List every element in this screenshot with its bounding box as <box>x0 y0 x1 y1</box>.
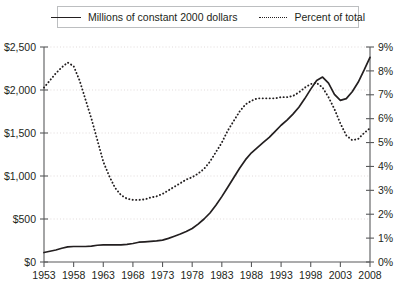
chart-series <box>44 57 370 252</box>
chart-gridlines <box>44 47 370 219</box>
right-tick-label: 1% <box>378 232 393 244</box>
left-tick-label: $1,000 <box>4 170 36 182</box>
right-tick-label: 9% <box>378 41 393 53</box>
left-axis-ticks: $0$500$1,000$1,500$2,000$2,500 <box>4 41 48 268</box>
x-tick-label: 1993 <box>269 269 293 281</box>
right-tick-label: 4% <box>378 160 393 172</box>
right-tick-label: 2% <box>378 208 393 220</box>
right-tick-label: 0% <box>378 256 393 268</box>
right-tick-label: 8% <box>378 65 393 77</box>
chart-axes <box>44 47 370 262</box>
left-tick-label: $500 <box>13 213 37 225</box>
legend-swatch-dotted-line-icon <box>259 17 287 18</box>
chart-plot: $0$500$1,000$1,500$2,000$2,500 0%1%2%3%4… <box>0 0 406 293</box>
chart-legend: Millions of constant 2000 dollars Percen… <box>57 6 359 28</box>
x-tick-label: 2008 <box>358 269 382 281</box>
x-tick-label: 1988 <box>240 269 264 281</box>
legend-label-percent: Percent of total <box>294 12 365 23</box>
right-tick-label: 3% <box>378 184 393 196</box>
x-axis-ticks: 1953195819631968197319781983198819931998… <box>32 262 382 281</box>
legend-swatch-solid-line-icon <box>51 17 81 18</box>
x-tick-label: 1978 <box>181 269 205 281</box>
x-tick-label: 1958 <box>62 269 86 281</box>
x-tick-label: 2003 <box>329 269 353 281</box>
x-tick-label: 1953 <box>32 269 56 281</box>
legend-entry-percent: Percent of total <box>259 12 365 23</box>
legend-entry-millions: Millions of constant 2000 dollars <box>51 12 237 23</box>
right-tick-label: 6% <box>378 112 393 124</box>
x-tick-label: 1973 <box>151 269 175 281</box>
x-tick-label: 1963 <box>92 269 116 281</box>
left-tick-label: $0 <box>24 256 36 268</box>
left-tick-label: $1,500 <box>4 127 36 139</box>
x-tick-label: 1998 <box>299 269 323 281</box>
x-tick-label: 1983 <box>210 269 234 281</box>
right-tick-label: 7% <box>378 88 393 100</box>
chart-container: Millions of constant 2000 dollars Percen… <box>0 0 406 293</box>
x-tick-label: 1968 <box>121 269 145 281</box>
left-tick-label: $2,000 <box>4 84 36 96</box>
series-line-percent-of-total <box>44 63 370 200</box>
right-tick-label: 5% <box>378 136 393 148</box>
left-tick-label: $2,500 <box>4 41 36 53</box>
legend-label-millions: Millions of constant 2000 dollars <box>88 12 237 23</box>
